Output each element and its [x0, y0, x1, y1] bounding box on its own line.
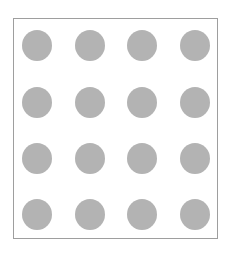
grid-dot-r4-c4	[180, 199, 210, 230]
grid-dot-r4-c1	[22, 199, 52, 230]
grid-dot-r1-c1	[22, 30, 52, 61]
grid-dot-r4-c2	[75, 199, 105, 230]
grid-dot-r1-c4	[180, 30, 210, 61]
grid-dot-r1-c2	[75, 30, 105, 61]
grid-dot-r2-c4	[180, 87, 210, 118]
grid-dot-r3-c1	[22, 143, 52, 174]
grid-dot-r2-c2	[75, 87, 105, 118]
grid-dot-r4-c3	[127, 199, 157, 230]
grid-dot-r2-c1	[22, 87, 52, 118]
grid-dot-r3-c4	[180, 143, 210, 174]
grid-dot-r2-c3	[127, 87, 157, 118]
grid-dot-r1-c3	[127, 30, 157, 61]
grid-dot-r3-c2	[75, 143, 105, 174]
grid-dot-r3-c3	[127, 143, 157, 174]
